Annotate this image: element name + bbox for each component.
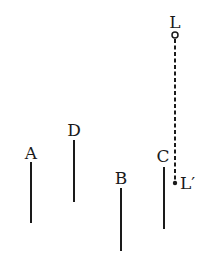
diagram-canvas: A D B C L L′ (0, 0, 209, 276)
pole-d-label: D (67, 120, 81, 140)
pole-a-label: A (24, 143, 38, 163)
pole-c-label: C (156, 146, 169, 166)
pole-c: C (156, 146, 169, 229)
pole-d: D (67, 120, 81, 202)
projection-label: L′ (180, 173, 195, 193)
light-label: L (169, 12, 180, 32)
pole-b-label: B (115, 168, 128, 188)
pole-a: A (24, 143, 38, 223)
pole-b: B (115, 168, 128, 251)
light-circle-icon (172, 32, 178, 38)
projection-dot-icon (173, 181, 177, 185)
light-source: L L′ (169, 12, 195, 193)
